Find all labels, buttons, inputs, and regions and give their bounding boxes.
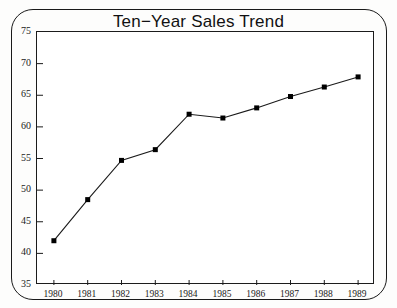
sales-trend-line bbox=[54, 77, 358, 241]
x-axis-tick-label: 1987 bbox=[273, 289, 307, 299]
y-axis-tick-label: 60 bbox=[9, 120, 31, 131]
x-axis-tick-label: 1986 bbox=[239, 289, 273, 299]
data-point-marker bbox=[153, 147, 158, 152]
y-axis-tick-label: 50 bbox=[9, 183, 31, 194]
data-point-marker bbox=[322, 85, 327, 90]
data-point-marker bbox=[187, 112, 192, 117]
data-point-marker bbox=[356, 74, 361, 79]
y-axis-tick-label: 65 bbox=[9, 88, 31, 99]
line-chart-svg bbox=[37, 32, 375, 285]
x-axis-tick-label: 1980 bbox=[36, 289, 70, 299]
x-axis-tick-label: 1984 bbox=[171, 289, 205, 299]
data-point-markers bbox=[51, 74, 360, 243]
y-axis-tick-marks bbox=[37, 64, 43, 254]
x-axis-tick-label: 1983 bbox=[137, 289, 171, 299]
x-axis-tick-label: 1989 bbox=[340, 289, 374, 299]
y-axis-tick-label: 45 bbox=[9, 215, 31, 226]
data-point-marker bbox=[85, 197, 90, 202]
y-axis-tick-label: 70 bbox=[9, 57, 31, 68]
y-axis-tick-label: 35 bbox=[9, 278, 31, 289]
data-point-marker bbox=[288, 94, 293, 99]
y-axis-tick-label: 40 bbox=[9, 246, 31, 257]
chart-figure: Ten−Year Sales Trend 354045505560657075 … bbox=[0, 0, 397, 308]
x-axis-tick-label: 1981 bbox=[70, 289, 104, 299]
data-point-marker bbox=[51, 238, 56, 243]
data-point-marker bbox=[254, 105, 259, 110]
data-point-marker bbox=[119, 158, 124, 163]
y-axis-tick-label: 75 bbox=[9, 25, 31, 36]
data-point-marker bbox=[220, 116, 225, 121]
plot-area bbox=[36, 31, 374, 284]
chart-title: Ten−Year Sales Trend bbox=[0, 12, 397, 32]
y-axis-tick-label: 55 bbox=[9, 152, 31, 163]
x-axis-tick-marks bbox=[54, 280, 358, 285]
x-axis-tick-label: 1988 bbox=[306, 289, 340, 299]
x-axis-tick-label: 1982 bbox=[104, 289, 138, 299]
x-axis-tick-label: 1985 bbox=[205, 289, 239, 299]
